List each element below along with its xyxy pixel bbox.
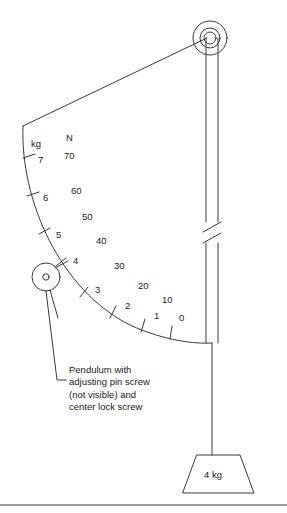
newton-tick-label-30: 30: [114, 261, 125, 271]
pendulum-string: [23, 38, 207, 126]
unit-header-newton: N: [66, 133, 73, 143]
pulley-wheel: [193, 21, 227, 55]
kg-tick-label-0: 0: [179, 313, 184, 323]
newton-tick-label-20: 20: [138, 281, 149, 291]
kg-tick-label-4: 4: [73, 256, 78, 266]
unit-header-kg: kg: [31, 139, 41, 149]
pendulum-force-diagram: kg N 7 6 5 4 3 2 1 0 70 60 50 40 30 20 1…: [0, 0, 287, 513]
scale-tick-marks: [23, 154, 172, 339]
kg-tick-label-1: 1: [154, 311, 159, 321]
newton-tick-label-60: 60: [71, 186, 82, 196]
newton-tick-label-50: 50: [82, 212, 93, 222]
kg-tick-label-3: 3: [95, 285, 100, 295]
kg-tick-label-5: 5: [56, 230, 61, 240]
newton-tick-label-10: 10: [162, 295, 173, 305]
vertical-rod: [206, 38, 218, 343]
diagram-canvas: [0, 0, 287, 513]
rod-break-mark: [203, 222, 221, 243]
measurement-arc: [23, 126, 212, 343]
kg-tick-label-7: 7: [38, 155, 43, 165]
weight-label: 4 kg: [204, 469, 222, 480]
newton-tick-label-40: 40: [96, 236, 107, 246]
kg-tick-label-2: 2: [125, 301, 130, 311]
pendulum-arm: [50, 290, 58, 318]
kg-tick-label-6: 6: [43, 193, 48, 203]
newton-tick-label-70: 70: [64, 151, 75, 161]
caption-leader-line: [46, 291, 66, 380]
pendulum-caption: Pendulum with adjusting pin screw (not v…: [69, 364, 165, 414]
